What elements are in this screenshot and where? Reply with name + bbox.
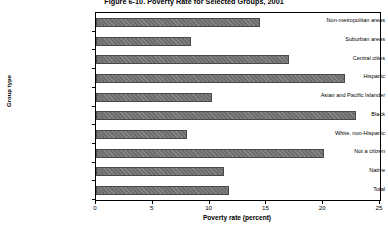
- category-label: Total: [296, 187, 388, 193]
- bar: [96, 149, 324, 158]
- bar: [96, 37, 191, 46]
- y-tick-mark: [92, 31, 95, 32]
- x-tick-label: 5: [142, 204, 162, 211]
- category-label: White, non-Hispanic: [296, 131, 388, 137]
- category-label: Central cities: [296, 56, 388, 62]
- x-tick-label: 15: [255, 204, 275, 211]
- bar: [96, 18, 260, 27]
- category-label: Non-metropolitan areas: [296, 18, 388, 24]
- category-label: Not a citizen: [296, 149, 388, 155]
- y-tick-mark: [92, 180, 95, 181]
- bar: [96, 93, 212, 102]
- x-tick-label: 0: [85, 204, 105, 211]
- x-tick-label: 20: [312, 204, 332, 211]
- y-tick-mark: [92, 124, 95, 125]
- y-tick-mark: [92, 68, 95, 69]
- x-axis-title: Poverty rate (percent): [95, 214, 379, 221]
- bar: [96, 55, 289, 64]
- category-label: Asian and Pacific Islander: [296, 93, 388, 99]
- category-label: Native: [296, 168, 388, 174]
- bar: [96, 130, 187, 139]
- chart-title: Figure 6-10. Poverty Rate for Selected G…: [0, 0, 388, 6]
- x-tick-label: 10: [199, 204, 219, 211]
- y-tick-mark: [92, 143, 95, 144]
- poverty-rate-bar-chart: Figure 6-10. Poverty Rate for Selected G…: [0, 0, 388, 227]
- x-tick-label: 25: [369, 204, 388, 211]
- y-tick-mark: [92, 49, 95, 50]
- category-label: Suburban areas: [296, 37, 388, 43]
- category-label: Hispanic: [296, 74, 388, 80]
- bar: [96, 186, 229, 195]
- y-tick-mark: [92, 162, 95, 163]
- y-tick-mark: [92, 106, 95, 107]
- y-tick-mark: [92, 87, 95, 88]
- y-axis-title: Group type: [6, 66, 12, 116]
- bar: [96, 167, 224, 176]
- category-label: Black: [296, 112, 388, 118]
